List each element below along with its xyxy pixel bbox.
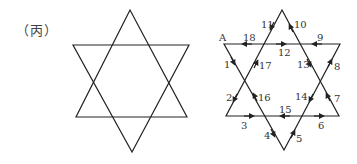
edge-label: 2 <box>226 92 232 103</box>
edge-label: 17 <box>259 60 272 71</box>
edge-label: 6 <box>318 120 324 131</box>
edge-label: 5 <box>296 133 302 144</box>
edge-label: 4 <box>264 130 270 141</box>
edge-label: 10 <box>294 19 307 30</box>
edge-label: 12 <box>278 47 291 58</box>
edge-label: 9 <box>317 32 323 43</box>
vertex-label-a: A <box>218 32 227 43</box>
edge-label: 16 <box>258 92 271 103</box>
left-hexagram <box>73 10 189 152</box>
edge-label: 18 <box>243 32 256 43</box>
edge-label: 15 <box>279 104 292 115</box>
edge-label: 13 <box>297 59 310 70</box>
hexagram-figures: A 1 2 3 4 5 6 7 8 9 10 11 12 13 14 15 16… <box>0 0 357 164</box>
edge-label: 7 <box>334 93 340 104</box>
edge-label: 11 <box>261 19 274 30</box>
edge-label: 14 <box>295 91 308 102</box>
right-star-labels: A 1 2 3 4 5 6 7 8 9 10 11 12 13 14 15 16… <box>218 19 340 144</box>
edge-label: 3 <box>241 120 247 131</box>
edge-label: 1 <box>224 59 230 70</box>
right-down-triangle <box>224 44 340 150</box>
left-down-triangle <box>73 45 189 152</box>
left-up-triangle <box>76 10 187 117</box>
right-up-triangle <box>226 10 339 116</box>
edge-label: 8 <box>334 61 340 72</box>
